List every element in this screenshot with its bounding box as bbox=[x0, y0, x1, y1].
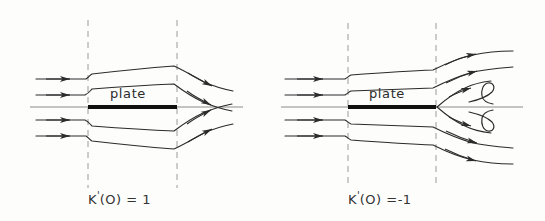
caption-symbol: K bbox=[348, 192, 357, 207]
panel-k-prime-positive-one: plate K'(O) = 1 bbox=[0, 0, 272, 221]
outlet-arrow-lower-inner bbox=[446, 131, 477, 143]
caption-expression: (O) =-1 bbox=[360, 192, 412, 207]
streamlines-lower bbox=[285, 120, 513, 164]
wake-boundary-lower bbox=[437, 107, 491, 133]
flow-diagram-figure: plate K'(O) = 1 bbox=[0, 0, 545, 221]
plate-label: plate bbox=[110, 86, 146, 101]
panel-caption: K'(O) = 1 bbox=[88, 190, 151, 207]
outlet-arrow-wake-upper bbox=[449, 88, 471, 97]
outlet-arrow-upper-inner bbox=[446, 71, 477, 83]
outlet-arrow-wake-lower bbox=[449, 117, 471, 126]
caption-symbol: K bbox=[88, 192, 97, 207]
wake-boundary-upper bbox=[437, 81, 491, 107]
plate-label: plate bbox=[369, 86, 405, 101]
outlet-arrow-upper-inner bbox=[187, 91, 211, 105]
streamlines-lower bbox=[36, 104, 233, 149]
streamline-lower-outer bbox=[285, 136, 513, 164]
outlet-arrow-lower-outer bbox=[445, 149, 476, 161]
outlet-arrow-upper-outer bbox=[188, 73, 212, 86]
outlet-arrow-lower-inner bbox=[187, 110, 211, 124]
recirculation-curl-upper bbox=[469, 83, 494, 104]
streamline-upper-outer bbox=[285, 51, 513, 79]
outlet-arrow-lower-outer bbox=[188, 129, 212, 142]
panel-caption: K'(O) =-1 bbox=[348, 190, 412, 207]
panel-k-prime-negative-one: plate K'(O) =-1 bbox=[273, 0, 545, 221]
caption-expression: (O) = 1 bbox=[100, 192, 151, 207]
recirculation-curl-lower bbox=[469, 110, 494, 131]
